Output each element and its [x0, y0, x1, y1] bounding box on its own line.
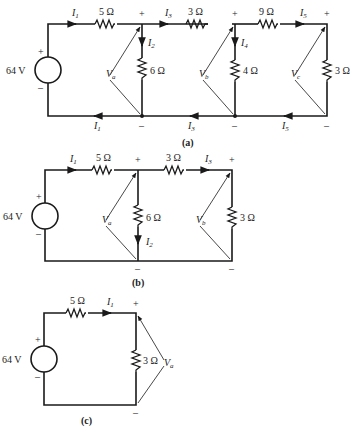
svg-text:+: + — [135, 154, 141, 165]
svg-text:+: + — [229, 154, 235, 165]
svg-text:64 V: 64 V — [3, 211, 23, 222]
caption-b: (b) — [132, 277, 144, 289]
svg-text:+: + — [324, 8, 330, 19]
svg-text:–: – — [231, 120, 238, 131]
source-voltage-label: 64 V — [6, 65, 26, 76]
label-3ohm-series: 3 Ω — [188, 6, 203, 17]
svg-text:Vb: Vb — [199, 68, 209, 81]
svg-text:I1: I1 — [106, 296, 114, 309]
svg-text:3 Ω: 3 Ω — [143, 355, 158, 366]
label-4ohm: 4 Ω — [243, 65, 258, 76]
svg-text:64 V: 64 V — [2, 354, 22, 365]
svg-text:+: + — [133, 298, 139, 309]
label-9ohm: 9 Ω — [259, 6, 274, 17]
svg-text:–: – — [228, 263, 235, 274]
svg-text:I2: I2 — [145, 236, 153, 249]
resistor-3ohm-load — [132, 350, 140, 372]
svg-text:5 Ω: 5 Ω — [96, 152, 111, 163]
svg-text:3 Ω: 3 Ω — [166, 152, 181, 163]
svg-text:–: – — [323, 120, 330, 131]
resistor-9ohm — [258, 20, 278, 28]
wire — [48, 24, 95, 57]
minus-sign: – — [37, 82, 44, 93]
svg-text:Va: Va — [164, 357, 174, 370]
caption-c: (c) — [81, 415, 92, 427]
svg-text:I1: I1 — [71, 7, 79, 20]
svg-text:Va: Va — [102, 214, 112, 227]
svg-text:–: – — [35, 228, 42, 239]
resistor-3ohm-load — [228, 207, 236, 229]
svg-text:I1: I1 — [93, 120, 101, 133]
svg-text:–: – — [134, 263, 141, 274]
svg-text:+: + — [139, 8, 145, 19]
svg-text:I4: I4 — [240, 37, 248, 50]
svg-text:I3: I3 — [164, 7, 172, 20]
resistor-5ohm — [95, 20, 115, 28]
svg-text:+: + — [232, 8, 238, 19]
plus-sign: + — [38, 46, 44, 57]
svg-text:+: + — [35, 334, 41, 345]
svg-text:I5: I5 — [299, 7, 307, 20]
svg-text:Va: Va — [106, 68, 116, 81]
svg-text:I3: I3 — [204, 153, 212, 166]
resistor-4ohm — [231, 60, 239, 82]
resistor-3ohm-load — [323, 60, 331, 82]
svg-text:3 Ω: 3 Ω — [240, 212, 255, 223]
resistor-6ohm — [138, 58, 146, 80]
caption-a: (a) — [182, 137, 194, 149]
svg-text:–: – — [138, 120, 145, 131]
svg-text:+: + — [36, 191, 42, 202]
label-3ohm-load: 3 Ω — [335, 65, 350, 76]
svg-text:5 Ω: 5 Ω — [70, 295, 85, 306]
svg-text:Vc: Vc — [291, 68, 301, 81]
svg-text:–: – — [34, 371, 41, 382]
svg-text:I1: I1 — [69, 153, 77, 166]
circuit-c: 64 V + – 5 Ω I1 + 3 Ω Va – (c) — [2, 295, 174, 427]
voltage-source-a: 64 V + – — [6, 46, 61, 93]
circuit-figure: 64 V + – — [0, 0, 364, 429]
resistor-5ohm — [92, 166, 112, 174]
circuit-b: 64 V + – I1 5 Ω + 3 Ω I3 + 6 Ω I2 Va 3 Ω… — [3, 152, 255, 289]
resistor-5ohm — [66, 309, 86, 317]
svg-text:I3: I3 — [187, 120, 195, 133]
circuit-a: 64 V + – — [6, 6, 350, 149]
resistor-3ohm-series — [164, 166, 184, 174]
label-5ohm: 5 Ω — [99, 6, 114, 17]
svg-text:I2: I2 — [147, 37, 155, 50]
svg-text:I5: I5 — [281, 120, 289, 133]
label-6ohm: 6 Ω — [150, 65, 165, 76]
svg-text:6 Ω: 6 Ω — [146, 212, 161, 223]
resistor-6ohm — [134, 205, 142, 227]
svg-text:Vb: Vb — [196, 214, 206, 227]
svg-text:–: – — [132, 407, 139, 418]
